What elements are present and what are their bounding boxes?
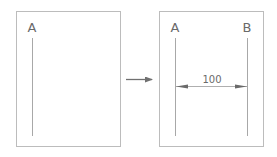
after-label-a: A bbox=[171, 20, 180, 35]
after-panel: A B 100 bbox=[160, 12, 264, 147]
dimension-value: 100 bbox=[202, 74, 221, 85]
before-panel: A bbox=[17, 12, 121, 147]
diagram-canvas: A A B 100 bbox=[0, 0, 277, 157]
after-label-b: B bbox=[243, 20, 252, 35]
before-label-a: A bbox=[28, 20, 37, 35]
